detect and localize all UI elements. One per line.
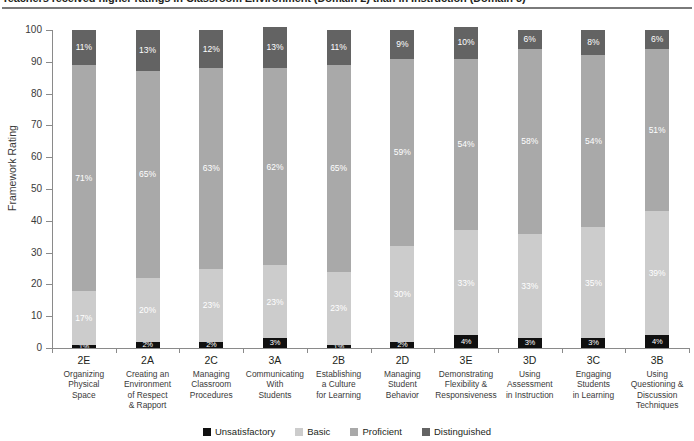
- y-axis-tick: [46, 94, 52, 95]
- bar-segment-value-label: 58%: [521, 137, 538, 146]
- bar-group[interactable]: 1%17%71%11%: [72, 30, 96, 348]
- bar-group[interactable]: 2%20%65%13%: [136, 30, 160, 348]
- bar-segment-basic[interactable]: 23%: [327, 272, 351, 345]
- bar-segment-unsatisfactory[interactable]: 2%: [136, 342, 160, 348]
- bar-segment-unsatisfactory[interactable]: 1%: [72, 345, 96, 348]
- bar-segment-basic[interactable]: 33%: [454, 230, 478, 335]
- x-axis-tick: [625, 348, 626, 353]
- bar-group[interactable]: 3%33%58%6%: [518, 30, 542, 348]
- bar-segment-distinguished[interactable]: 6%: [645, 30, 669, 49]
- x-axis-category-3A: 3ACommunicatingWithStudents: [243, 354, 307, 400]
- bar-group[interactable]: 4%39%51%6%: [645, 30, 669, 348]
- category-name-line: Flexibility &: [434, 379, 498, 389]
- y-axis-tick: [46, 284, 52, 285]
- page-title: Teachers received higher ratings in Clas…: [2, 0, 526, 4]
- bar-segment-proficient[interactable]: 63%: [199, 68, 223, 268]
- category-name-line: a Culture: [307, 379, 371, 389]
- bar-segment-value-label: 39%: [649, 269, 666, 278]
- bar-segment-value-label: 35%: [585, 279, 602, 288]
- category-code: 3C: [562, 354, 626, 366]
- chart-legend: UnsatisfactoryBasicProficientDistinguish…: [0, 426, 694, 437]
- bar-segment-value-label: 54%: [458, 140, 475, 149]
- bar-segment-value-label: 11%: [330, 43, 346, 52]
- category-name-line: Communicating: [243, 369, 307, 379]
- bar-segment-basic[interactable]: 30%: [390, 246, 414, 341]
- bar-segment-distinguished[interactable]: 13%: [263, 27, 287, 68]
- category-name-line: Space: [52, 390, 116, 400]
- bar-segment-unsatisfactory[interactable]: 3%: [518, 338, 542, 348]
- bar-segment-basic[interactable]: 23%: [263, 265, 287, 338]
- category-name-line: Using: [498, 369, 562, 379]
- category-name-line: Organizing: [52, 369, 116, 379]
- bar-segment-unsatisfactory[interactable]: 4%: [645, 335, 669, 348]
- y-axis-tick: [46, 221, 52, 222]
- bar-group[interactable]: 3%35%54%8%: [581, 30, 605, 348]
- bar-segment-basic[interactable]: 33%: [518, 234, 542, 339]
- bar-segment-unsatisfactory[interactable]: 2%: [199, 342, 223, 348]
- bar-segment-distinguished[interactable]: 11%: [327, 30, 351, 65]
- bar-segment-distinguished[interactable]: 13%: [136, 30, 160, 71]
- bar-segment-distinguished[interactable]: 6%: [518, 30, 542, 49]
- category-code: 2B: [307, 354, 371, 366]
- bar-segment-basic[interactable]: 17%: [72, 291, 96, 345]
- bar-segment-basic[interactable]: 23%: [199, 269, 223, 342]
- x-axis-tick: [562, 348, 563, 353]
- bar-group[interactable]: 3%23%62%13%: [263, 30, 287, 348]
- category-code: 2C: [179, 354, 243, 366]
- y-axis-tick-label: 10: [0, 310, 42, 321]
- legend-item-distinguished[interactable]: Distinguished: [422, 426, 491, 437]
- category-name-line: Responsiveness: [434, 390, 498, 400]
- bar-segment-unsatisfactory[interactable]: 3%: [581, 338, 605, 348]
- bar-group[interactable]: 2%30%59%9%: [390, 30, 414, 348]
- legend-item-unsatisfactory[interactable]: Unsatisfactory: [203, 426, 275, 437]
- bar-group[interactable]: 2%23%63%12%: [199, 30, 223, 348]
- y-axis-tick-label: 60: [0, 151, 42, 162]
- bar-segment-basic[interactable]: 39%: [645, 211, 669, 335]
- bar-segment-distinguished[interactable]: 11%: [72, 30, 96, 65]
- bar-segment-value-label: 3%: [270, 339, 280, 347]
- bar-segment-basic[interactable]: 35%: [581, 227, 605, 338]
- bar-group[interactable]: 4%33%54%10%: [454, 30, 478, 348]
- bar-segment-proficient[interactable]: 51%: [645, 49, 669, 211]
- bar-segment-value-label: 20%: [139, 306, 156, 315]
- bar-segment-unsatisfactory[interactable]: 2%: [390, 342, 414, 348]
- bar-group[interactable]: 1%23%65%11%: [327, 30, 351, 348]
- legend-item-basic[interactable]: Basic: [295, 426, 330, 437]
- bar-segment-proficient[interactable]: 65%: [327, 65, 351, 272]
- bar-segment-proficient[interactable]: 65%: [136, 71, 160, 278]
- bar-segment-distinguished[interactable]: 10%: [454, 27, 478, 59]
- category-name-line: Establishing: [307, 369, 371, 379]
- category-code: 2A: [116, 354, 180, 366]
- bar-segment-proficient[interactable]: 54%: [454, 59, 478, 231]
- bar-segment-unsatisfactory[interactable]: 4%: [454, 335, 478, 348]
- bar-segment-proficient[interactable]: 58%: [518, 49, 542, 233]
- category-name-line: in Learning: [562, 390, 626, 400]
- bar-segment-value-label: 2%: [206, 342, 216, 348]
- category-name-line: for Learning: [307, 390, 371, 400]
- legend-swatch-icon: [203, 428, 211, 436]
- bar-segment-unsatisfactory[interactable]: 1%: [327, 345, 351, 348]
- bar-segment-unsatisfactory[interactable]: 3%: [263, 338, 287, 348]
- bar-segment-value-label: 71%: [75, 174, 92, 183]
- legend-label: Unsatisfactory: [215, 426, 275, 437]
- x-axis-tick: [434, 348, 435, 353]
- bar-segment-distinguished[interactable]: 12%: [199, 30, 223, 68]
- bar-segment-proficient[interactable]: 59%: [390, 59, 414, 247]
- category-code: 3B: [625, 354, 689, 366]
- bar-segment-proficient[interactable]: 62%: [263, 68, 287, 265]
- bar-segment-proficient[interactable]: 54%: [581, 55, 605, 227]
- bar-segment-distinguished[interactable]: 8%: [581, 30, 605, 55]
- y-axis-tick-label: 30: [0, 247, 42, 258]
- bar-segment-proficient[interactable]: 71%: [72, 65, 96, 291]
- x-axis-category-2E: 2EOrganizingPhysicalSpace: [52, 354, 116, 400]
- x-axis-category-3D: 3DUsingAssessmentin Instruction: [498, 354, 562, 400]
- category-code: 2D: [371, 354, 435, 366]
- bar-segment-basic[interactable]: 20%: [136, 278, 160, 342]
- bar-segment-value-label: 13%: [266, 43, 283, 52]
- bar-segment-value-label: 23%: [203, 301, 220, 310]
- bar-segment-value-label: 6%: [524, 35, 536, 44]
- category-name-line: of Respect: [116, 390, 180, 400]
- category-name-line: Managing: [179, 369, 243, 379]
- legend-item-proficient[interactable]: Proficient: [350, 426, 402, 437]
- bar-segment-distinguished[interactable]: 9%: [390, 30, 414, 59]
